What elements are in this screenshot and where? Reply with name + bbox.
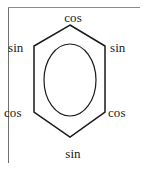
- ring-label-upper-left: sin: [8, 41, 23, 54]
- ring-label-top: cos: [0, 11, 146, 24]
- ring-label-upper-right: sin: [110, 41, 125, 54]
- ring-label-lower-right: cos: [108, 106, 126, 119]
- ring-label-lower-left: cos: [4, 106, 22, 119]
- inner-ellipse: [44, 44, 96, 116]
- hexagon-outline: [34, 25, 105, 137]
- figure-root: cos sin sin cos cos sin: [0, 0, 146, 170]
- hexagon-ring-graphic: [0, 0, 146, 170]
- ring-label-bottom: sin: [0, 147, 146, 160]
